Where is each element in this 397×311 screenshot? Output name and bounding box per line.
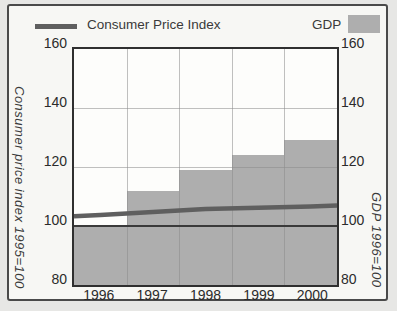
chart-figure-page: Consumer Price Index GDP 16014012010080 … (0, 0, 397, 311)
ytick-label: 80 (23, 270, 67, 288)
right-axis-title: GDP 1996=100 (369, 192, 384, 288)
cpi-line (74, 206, 337, 217)
xtick-label: 1997 (125, 287, 178, 303)
cpi-line-chart (74, 49, 337, 285)
x-axis-ticks: 19961997199819992000 (72, 287, 339, 303)
ytick-label: 160 (341, 34, 381, 52)
xtick-label: 1998 (179, 287, 232, 303)
xtick-label: 1996 (72, 287, 125, 303)
gdp-bar-legend-swatch (348, 15, 380, 33)
ytick-label: 140 (341, 93, 381, 111)
ytick-label: 140 (23, 93, 67, 111)
y-axis-ticks-left: 16014012010080 (23, 34, 67, 288)
xtick-label: 1999 (232, 287, 285, 303)
plot-area (72, 47, 339, 287)
legend-label-gdp: GDP (312, 17, 341, 32)
cpi-line-legend-swatch (35, 24, 77, 29)
legend-label-cpi: Consumer Price Index (87, 17, 221, 32)
left-axis-title: Consumer price index 1995=100 (12, 86, 27, 289)
ytick-label: 120 (341, 152, 381, 170)
ytick-label: 160 (23, 34, 67, 52)
chart-figure-box: Consumer Price Index GDP 16014012010080 … (7, 4, 388, 301)
ytick-label: 120 (23, 152, 67, 170)
xtick-label: 2000 (286, 287, 339, 303)
ytick-label: 100 (23, 211, 67, 229)
